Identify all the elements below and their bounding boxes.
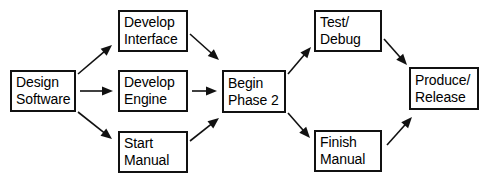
arrow-shaft: [190, 34, 212, 54]
node-start-manual[interactable]: StartManual: [118, 131, 188, 173]
arrow-test-debug-to-produce: [384, 39, 407, 65]
arrow-shaft: [190, 124, 212, 141]
node-label-line1: Produce/: [415, 72, 470, 89]
node-label-line1: Begin: [228, 75, 263, 92]
node-design-software[interactable]: DesignSoftware: [10, 70, 76, 112]
node-label-line2: Release: [415, 89, 466, 106]
node-develop-engine[interactable]: DevelopEngine: [118, 70, 188, 112]
arrow-finish-manual-to-produce: [387, 117, 412, 145]
arrow-begin-to-test-debug: [288, 47, 311, 74]
node-label-line1: Develop: [124, 14, 175, 31]
node-label-line2: Manual: [320, 151, 365, 168]
arrow-head: [101, 129, 112, 139]
node-label-line2: Engine: [124, 91, 167, 108]
node-label-line2: Interface: [124, 31, 178, 48]
arrow-design-to-interface: [78, 45, 112, 74]
arrow-shaft: [387, 124, 406, 145]
node-develop-interface[interactable]: DevelopInterface: [118, 10, 188, 52]
arrow-shaft: [78, 51, 105, 74]
node-label-line1: Develop: [124, 74, 175, 91]
node-begin-phase-2[interactable]: BeginPhase 2: [222, 70, 286, 113]
arrow-engine-to-begin: [192, 86, 217, 95]
arrow-begin-to-finish-manual: [288, 113, 310, 138]
arrow-interface-to-begin: [190, 34, 219, 60]
node-test-debug[interactable]: Test/Debug: [314, 10, 382, 52]
node-finish-manual[interactable]: FinishManual: [314, 130, 382, 172]
arrow-design-to-engine: [80, 86, 113, 95]
node-label-line2: Debug: [320, 31, 361, 48]
node-label-line2: Phase 2: [228, 92, 279, 109]
arrow-head: [206, 86, 217, 95]
arrow-head: [102, 86, 113, 95]
node-produce-release[interactable]: Produce/Release: [409, 67, 479, 110]
node-label-line1: Start: [124, 135, 153, 152]
node-label-line2: Manual: [124, 152, 169, 169]
arrow-head: [208, 118, 219, 128]
arrow-start-manual-to-begin: [190, 118, 219, 141]
node-label-line1: Test/: [320, 14, 349, 31]
node-label-line1: Finish: [320, 134, 357, 151]
node-label-line2: Software: [16, 91, 70, 108]
node-label-line1: Design: [16, 74, 59, 91]
flowchart-diagram: DesignSoftwareDevelopInterfaceDevelopEng…: [0, 0, 487, 180]
arrow-design-to-start-manual: [78, 112, 112, 139]
arrow-shaft: [288, 113, 304, 131]
arrow-shaft: [78, 112, 105, 133]
arrow-shaft: [384, 39, 401, 58]
arrow-shaft: [288, 54, 305, 74]
